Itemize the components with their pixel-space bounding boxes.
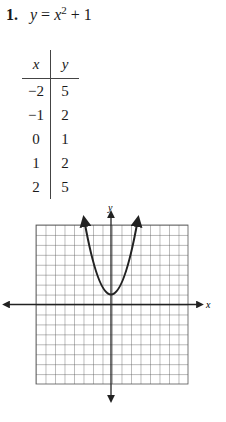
cell-x: −2 — [22, 79, 51, 104]
cell-y: 2 — [51, 151, 80, 175]
x-axis-label: x — [205, 299, 211, 310]
cell-x: −1 — [22, 103, 51, 127]
cell-x: 0 — [22, 127, 51, 151]
table-header: x y — [22, 50, 79, 79]
problem-statement: 1.y = x2 + 1 — [6, 4, 92, 24]
table-row: 12 — [22, 151, 79, 175]
cell-y: 1 — [51, 127, 80, 151]
problem-number: 1. — [6, 6, 18, 23]
header-x: x — [22, 50, 51, 79]
table-row: −25 — [22, 79, 79, 104]
cell-y: 5 — [51, 79, 80, 104]
parabola-graph: x y — [0, 190, 226, 422]
cell-x: 1 — [22, 151, 51, 175]
equation-rest: + 1 — [67, 6, 92, 23]
y-axis-label: y — [107, 202, 113, 213]
cell-y: 2 — [51, 103, 80, 127]
table-row: 01 — [22, 127, 79, 151]
table-row: −12 — [22, 103, 79, 127]
values-table: x y −25 −12 01 12 25 — [22, 50, 79, 199]
header-y: y — [51, 50, 80, 79]
equals-sign: = — [37, 6, 54, 23]
